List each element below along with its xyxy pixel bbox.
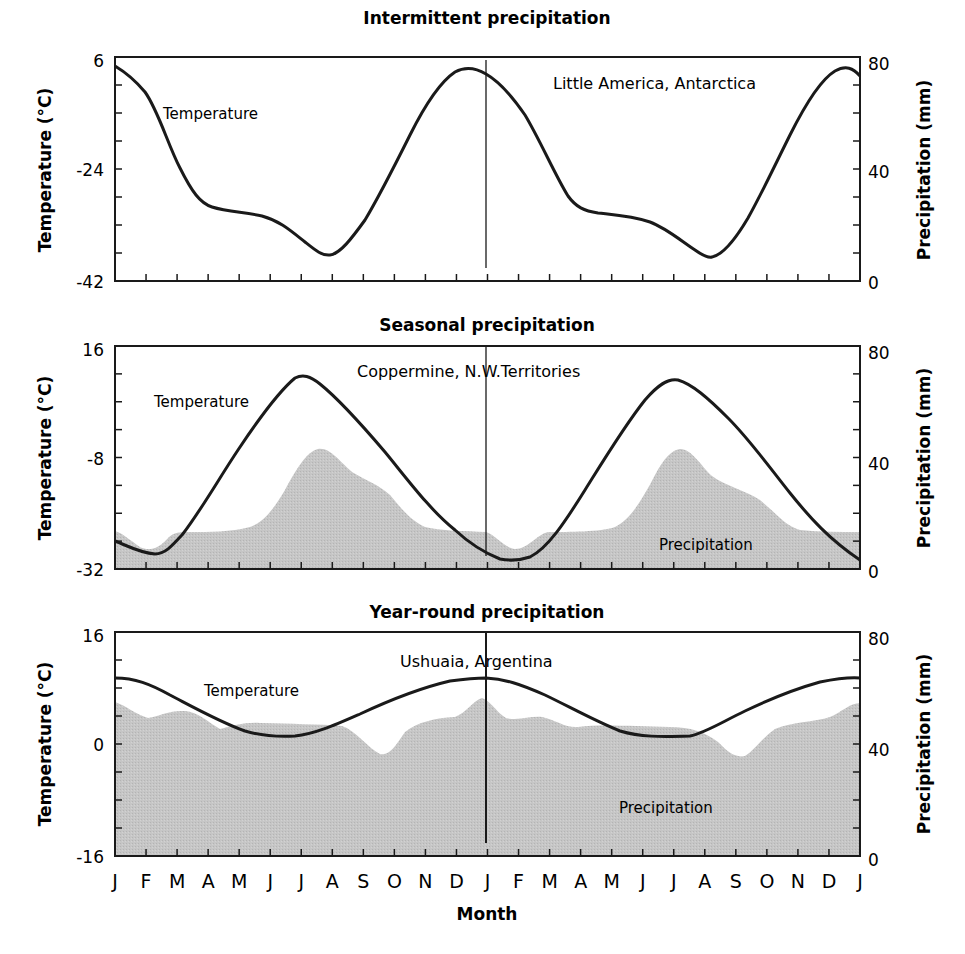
y-axis-title-left: Temperature (°C) — [35, 376, 55, 541]
y-tick-left: -42 — [76, 272, 104, 292]
month-label: D — [822, 870, 837, 892]
panel-year-round: Year-round precipitation Temperature Pre… — [35, 602, 934, 870]
temperature-label: Temperature — [203, 682, 299, 700]
month-label: A — [202, 870, 215, 892]
precipitation-label: Precipitation — [619, 799, 713, 817]
month-label: O — [759, 870, 774, 892]
temperature-line — [115, 66, 860, 257]
y-tick-left: 0 — [93, 735, 104, 755]
y-tick-left: -8 — [87, 449, 104, 469]
month-label: S — [357, 870, 369, 892]
y-ticks-left — [115, 374, 122, 541]
month-label: J — [484, 870, 491, 892]
y-tick-left: -16 — [76, 847, 104, 867]
precipitation-area — [115, 698, 860, 856]
month-label: J — [266, 870, 273, 892]
month-label: A — [574, 870, 587, 892]
y-tick-left: -32 — [76, 560, 104, 580]
month-label: N — [791, 870, 805, 892]
y-tick-right: 80 — [868, 54, 890, 74]
panel-title: Year-round precipitation — [369, 602, 605, 622]
station-label: Coppermine, N.W.Territories — [357, 362, 580, 381]
temperature-label: Temperature — [162, 105, 258, 123]
panel-intermittent: Intermittent precipitation Temperature L… — [35, 8, 934, 293]
x-ticks — [146, 274, 829, 281]
y-tick-right: 0 — [868, 562, 879, 582]
y-tick-right: 40 — [868, 162, 890, 182]
y-tick-right: 40 — [868, 454, 890, 474]
y-tick-right: 80 — [868, 629, 890, 649]
month-label: J — [639, 870, 646, 892]
month-label: A — [698, 870, 711, 892]
y-axis-title-right: Precipitation (mm) — [914, 654, 934, 835]
month-label: F — [141, 870, 152, 892]
y-axis-title-right: Precipitation (mm) — [914, 80, 934, 261]
y-tick-right: 0 — [868, 273, 879, 293]
y-axis-title-right: Precipitation (mm) — [914, 368, 934, 549]
month-label: A — [326, 870, 339, 892]
climate-chart-figure: Intermittent precipitation Temperature L… — [0, 0, 965, 954]
month-label: D — [449, 870, 464, 892]
month-label: S — [730, 870, 742, 892]
y-tick-right: 80 — [868, 343, 890, 363]
month-label: M — [541, 870, 557, 892]
month-label: O — [387, 870, 402, 892]
x-axis-title: Month — [457, 904, 518, 924]
month-label: J — [111, 870, 118, 892]
y-ticks-left — [115, 85, 122, 253]
month-label: F — [513, 870, 524, 892]
x-axis-month-labels: JFMAMJJASONDJFMAMJJASONDJ — [111, 870, 863, 892]
y-tick-left: 16 — [82, 340, 104, 360]
month-label: M — [169, 870, 185, 892]
y-tick-left: 6 — [93, 51, 104, 71]
panel-title: Intermittent precipitation — [363, 8, 610, 28]
y-ticks-right — [853, 85, 860, 253]
panel-title: Seasonal precipitation — [379, 315, 595, 335]
month-label: M — [603, 870, 619, 892]
month-label: N — [418, 870, 432, 892]
y-tick-right: 0 — [868, 850, 879, 870]
month-label: J — [297, 870, 304, 892]
y-axis-title-left: Temperature (°C) — [35, 88, 55, 253]
y-ticks-right — [853, 374, 860, 541]
month-label: M — [231, 870, 247, 892]
y-tick-right: 40 — [868, 740, 890, 760]
y-tick-left: -24 — [76, 160, 104, 180]
y-tick-left: 16 — [82, 626, 104, 646]
station-label: Little America, Antarctica — [553, 74, 756, 93]
temperature-label: Temperature — [153, 393, 249, 411]
panel-seasonal: Seasonal precipitation Temperature Preci… — [35, 315, 934, 582]
month-label: J — [670, 870, 677, 892]
y-axis-title-left: Temperature (°C) — [35, 662, 55, 827]
station-label: Ushuaia, Argentina — [400, 652, 553, 671]
precipitation-label: Precipitation — [659, 536, 753, 554]
month-label: J — [856, 870, 863, 892]
